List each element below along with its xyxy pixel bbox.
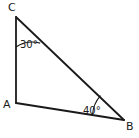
geometry-figure: C A B 30° 40° (0, 0, 139, 138)
vertex-label-c: C (8, 2, 16, 13)
side-CB (16, 17, 124, 120)
triangle-drawing (0, 0, 139, 138)
vertex-label-b: B (126, 121, 134, 132)
vertex-label-a: A (3, 99, 11, 110)
angle-measure-label-c: 30° (20, 40, 38, 50)
angle-measure-label-b: 40° (83, 106, 101, 116)
